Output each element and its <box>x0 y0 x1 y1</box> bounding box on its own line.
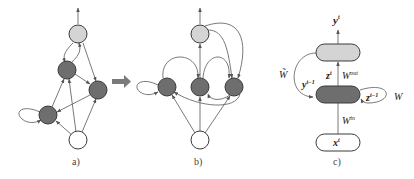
hidden-layer <box>316 86 360 103</box>
hidden-node <box>39 106 57 124</box>
hidden-node <box>89 81 107 99</box>
label-z-t: zt <box>325 70 332 81</box>
rnn-diagram: a) b) yt zt Wout yt−1 W̃ zt−1 W <box>0 0 414 179</box>
output-node <box>69 25 87 43</box>
label-w-out: Wout <box>342 70 358 81</box>
label-w-rec: W <box>394 91 404 102</box>
input-node <box>191 131 209 149</box>
caption-a: a) <box>72 156 80 168</box>
label-w-in: Win <box>342 115 355 126</box>
hidden-node <box>58 61 76 79</box>
output-node <box>191 25 209 43</box>
hidden-node <box>225 78 243 96</box>
label-y-t-1: yt−1 <box>301 79 315 90</box>
input-node <box>69 131 87 149</box>
output-layer <box>316 44 360 61</box>
caption-c: c) <box>333 156 341 168</box>
hidden-node <box>158 78 176 96</box>
panel-b-graph <box>137 8 243 133</box>
caption-b: b) <box>194 156 202 168</box>
hidden-node <box>191 78 209 96</box>
label-z-t-1: zt−1 <box>365 92 378 103</box>
label-w-tilde: W̃ <box>279 68 289 80</box>
transform-arrow-icon <box>112 75 131 88</box>
label-y-t: yt <box>331 14 340 26</box>
